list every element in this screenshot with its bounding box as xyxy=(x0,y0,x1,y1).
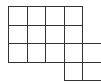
grid-cell xyxy=(45,25,65,44)
grid-cell xyxy=(45,6,65,26)
grid-cell xyxy=(27,43,46,63)
grid-cell xyxy=(64,6,83,26)
grid-cell xyxy=(64,43,83,63)
grid-cell xyxy=(82,43,101,63)
grid-cell xyxy=(82,62,101,81)
grid-cell xyxy=(27,6,46,26)
grid-cell xyxy=(45,43,65,63)
grid-cell xyxy=(27,25,46,44)
grid-cell xyxy=(8,25,28,44)
grid-cell xyxy=(8,6,28,26)
grid-cell xyxy=(8,43,28,63)
grid-cell xyxy=(64,62,83,81)
grid-cell xyxy=(64,25,83,44)
